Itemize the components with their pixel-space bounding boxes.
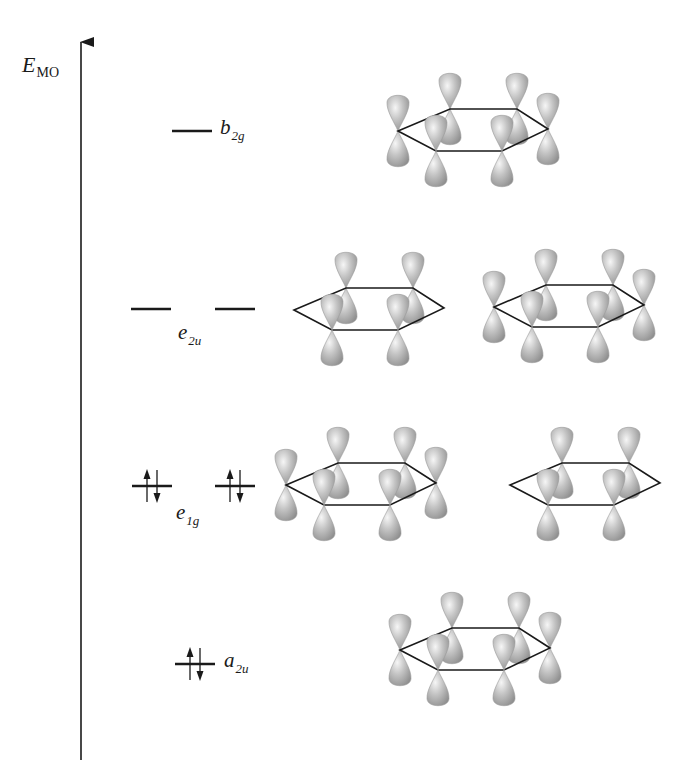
p-orbital-lobe	[425, 115, 447, 151]
p-orbital-lobe	[587, 291, 609, 327]
p-orbital-lobe	[521, 291, 543, 327]
p-orbital-lobe	[387, 330, 409, 366]
energy-level-a2u	[175, 647, 215, 681]
energy-level-e1g	[132, 469, 255, 503]
p-orbital-lobe	[379, 505, 401, 541]
p-orbital-lobe	[389, 614, 411, 650]
orbital-drawings	[275, 73, 660, 705]
p-orbital-lobe	[483, 307, 505, 343]
spin-up-arrowhead	[227, 469, 234, 479]
p-orbital-lobe	[313, 469, 335, 505]
level-label-a2u: a2u	[224, 650, 249, 671]
p-orbital-lobe	[379, 469, 401, 505]
orbital-diagram-e2u-2	[483, 249, 655, 362]
p-orbital-lobe	[275, 449, 297, 485]
p-orbital-lobe	[394, 427, 416, 463]
p-orbital-lobe	[427, 634, 449, 670]
p-orbital-lobe	[537, 505, 559, 541]
level-label-e1g: e1g	[176, 502, 199, 523]
level-label-main: e	[176, 500, 185, 524]
p-orbital-lobe	[537, 469, 559, 505]
p-orbital-lobe	[521, 327, 543, 363]
p-orbital-lobe	[551, 427, 573, 463]
orbital-diagram-a2u-5	[389, 592, 561, 705]
p-orbital-lobe	[483, 271, 505, 307]
p-orbital-lobe	[321, 330, 343, 366]
spin-down-arrowhead	[154, 493, 161, 503]
p-orbital-lobe	[402, 252, 424, 288]
p-orbital-lobe	[508, 592, 530, 628]
p-orbital-lobe	[491, 151, 513, 187]
p-orbital-lobe	[602, 249, 624, 285]
spin-up-arrowhead	[187, 647, 194, 657]
p-orbital-lobe	[603, 505, 625, 541]
level-label-main: e	[178, 320, 187, 344]
p-orbital-lobe	[439, 73, 461, 109]
p-orbital-lobe	[491, 115, 513, 151]
orbital-diagram-e1g-4	[510, 427, 660, 540]
level-label-sub: 1g	[186, 513, 199, 528]
p-orbital-lobe	[537, 129, 559, 165]
energy-axis-label-sub: MO	[36, 65, 59, 80]
p-orbital-lobe	[425, 483, 447, 519]
p-orbital-lobe	[539, 648, 561, 684]
p-orbital-lobe	[389, 650, 411, 686]
p-orbital-lobe	[618, 427, 640, 463]
level-label-sub: 2u	[236, 661, 249, 676]
spin-up-arrowhead	[144, 469, 151, 479]
level-label-e2u: e2u	[178, 322, 201, 343]
level-label-main: a	[224, 648, 235, 672]
p-orbital-lobe	[425, 151, 447, 187]
p-orbital-lobe	[335, 252, 357, 288]
p-orbital-lobe	[387, 131, 409, 167]
orbital-diagram-e1g-3	[275, 427, 447, 540]
level-label-main: b	[220, 115, 231, 139]
p-orbital-lobe	[603, 469, 625, 505]
level-label-sub: 2u	[188, 333, 201, 348]
energy-levels	[131, 131, 255, 681]
p-orbital-lobe	[313, 505, 335, 541]
mo-energy-diagram	[0, 0, 691, 780]
p-orbital-lobe	[493, 634, 515, 670]
level-label-b2g: b2g	[220, 117, 245, 138]
p-orbital-lobe	[387, 95, 409, 131]
p-orbital-lobe	[535, 249, 557, 285]
p-orbital-lobe	[506, 73, 528, 109]
p-orbital-lobe	[321, 294, 343, 330]
orbital-diagram-b2g-0	[387, 73, 559, 186]
p-orbital-lobe	[633, 305, 655, 341]
p-orbital-lobe	[493, 670, 515, 706]
p-orbital-lobe	[427, 670, 449, 706]
p-orbital-lobe	[275, 485, 297, 521]
energy-axis-label-main: E	[22, 52, 35, 77]
energy-axis-label: EMO	[22, 54, 59, 76]
p-orbital-lobe	[327, 427, 349, 463]
p-orbital-lobe	[587, 327, 609, 363]
spin-down-arrowhead	[237, 493, 244, 503]
level-label-sub: 2g	[232, 128, 245, 143]
p-orbital-lobe	[387, 294, 409, 330]
spin-down-arrowhead	[197, 671, 204, 681]
orbital-diagram-e2u-1	[294, 252, 444, 365]
p-orbital-lobe	[441, 592, 463, 628]
